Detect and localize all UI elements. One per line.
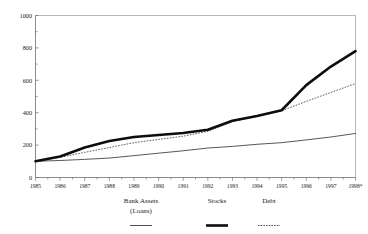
y-tick-label: 1000 <box>20 12 32 19</box>
y-tick-label: 400 <box>23 109 32 116</box>
x-tick-label: 1995 <box>276 183 287 189</box>
y-tick-label: 200 <box>23 141 32 148</box>
x-tick-label: 1994 <box>251 183 262 189</box>
x-tick-label: 1986 <box>55 183 66 189</box>
x-tick-label: 1992 <box>202 183 213 189</box>
line-chart: 0200400600800100019851986198719881989199… <box>0 0 368 234</box>
x-tick-label: 1991 <box>178 183 189 189</box>
x-tick-label: 1990 <box>153 183 164 189</box>
legend-label-bank-assets: Bank Assets <box>124 197 159 205</box>
legend-label-debt: Debt <box>262 197 276 205</box>
y-tick-label: 800 <box>23 44 32 51</box>
y-tick-label: 600 <box>23 77 32 84</box>
x-tick-label: 1996 <box>301 183 312 189</box>
legend-label-stocks: Stocks <box>208 197 227 205</box>
y-tick-label: 0 <box>29 174 32 181</box>
x-tick-label: 1987 <box>79 183 90 189</box>
x-tick-label: 1985 <box>30 183 41 189</box>
x-tick-label: 1988 <box>104 183 115 189</box>
series-line-stocks <box>36 51 356 161</box>
chart-figure: 0200400600800100019851986198719881989199… <box>0 0 368 234</box>
x-tick-label: 1997 <box>325 183 336 189</box>
x-tick-label: 1989 <box>128 183 139 189</box>
x-tick-label: 1993 <box>227 183 238 189</box>
x-tick-label: 1998* <box>349 183 363 189</box>
legend-label-bank-assets-loans: (Loans) <box>130 207 152 215</box>
